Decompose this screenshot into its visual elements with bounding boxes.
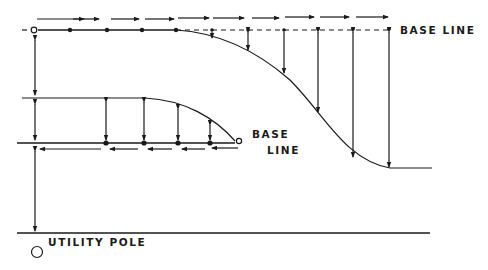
middle-line-curve xyxy=(22,98,235,141)
lower-offset-arrows xyxy=(106,102,210,140)
lower-start-point-icon xyxy=(236,138,241,143)
lower-direction-arrows xyxy=(40,148,238,149)
upper-offset-curve xyxy=(176,30,432,168)
top-start-point-icon xyxy=(31,27,37,33)
lower-base-line-label-2: LINE xyxy=(267,144,300,156)
pipeline-offset-diagram: BASE LINE BASE LINE UTILITY POLE xyxy=(0,0,488,270)
utility-pole-icon xyxy=(32,247,43,258)
top-direction-arrows xyxy=(37,17,388,19)
top-base-line-label: BASE LINE xyxy=(400,24,475,36)
upper-offset-arrows xyxy=(212,32,389,167)
utility-pole-label: UTILITY POLE xyxy=(48,236,146,248)
lower-base-line-label-1: BASE xyxy=(252,128,289,140)
